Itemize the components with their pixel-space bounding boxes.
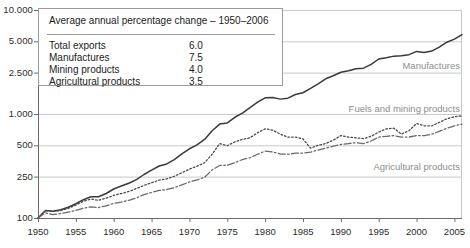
- legend-divider: [47, 34, 275, 35]
- x-axis-tick-label: 2005: [434, 226, 470, 237]
- y-axis-tick-label: 2.500: [0, 67, 33, 78]
- legend-row-label: Mining products: [49, 64, 189, 75]
- y-axis-tick-label: 10.000: [0, 4, 33, 15]
- x-axis-tick-label: 1975: [207, 226, 247, 237]
- legend-title: Average annual percentage change – 1950–…: [49, 15, 268, 26]
- series-annotation: Manufactures: [402, 60, 460, 71]
- x-axis-tick-label: 1960: [94, 226, 134, 237]
- x-axis-tick-label: 1970: [169, 226, 209, 237]
- x-axis-tick-label: 2000: [397, 226, 437, 237]
- legend-row: Total exports6.0: [49, 40, 275, 51]
- y-axis-tick-label: 250: [0, 171, 33, 182]
- y-axis-tick-label: 5.000: [0, 35, 33, 46]
- x-axis-tick-label: 1985: [283, 226, 323, 237]
- legend-row-value: 4.0: [189, 64, 235, 75]
- export-volume-chart: Average annual percentage change – 1950–…: [0, 0, 470, 248]
- legend-row: Manufactures7.5: [49, 52, 275, 63]
- legend-box: Average annual percentage change – 1950–…: [38, 8, 283, 86]
- x-axis-tick-label: 1995: [359, 226, 399, 237]
- legend-row-value: 3.5: [189, 76, 235, 87]
- legend-row-value: 6.0: [189, 40, 235, 51]
- legend-row-label: Total exports: [49, 40, 189, 51]
- legend-row: Agricultural products3.5: [49, 76, 275, 87]
- legend-row-label: Manufactures: [49, 52, 189, 63]
- series-annotation: Agricultural products: [373, 161, 460, 172]
- y-axis-tick-label: 500: [0, 139, 33, 150]
- series-annotation: Fuels and mining products: [349, 103, 460, 114]
- legend-row-value: 7.5: [189, 52, 235, 63]
- legend-row-label: Agricultural products: [49, 76, 189, 87]
- y-axis-tick-label: 100: [0, 212, 33, 223]
- x-axis-tick-label: 1950: [18, 226, 58, 237]
- x-axis-tick-label: 1955: [56, 226, 96, 237]
- x-axis-tick-label: 1990: [321, 226, 361, 237]
- legend-row: Mining products4.0: [49, 64, 275, 75]
- x-axis-tick-label: 1965: [132, 226, 172, 237]
- y-axis-tick-label: 1.000: [0, 108, 33, 119]
- x-axis-tick-label: 1980: [245, 226, 285, 237]
